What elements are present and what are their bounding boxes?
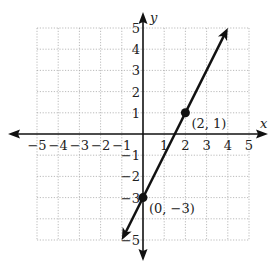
y-tick-label: −2 xyxy=(121,169,140,184)
y-tick-label: −3 xyxy=(121,191,140,206)
coordinate-plane: −5−4−3−2−112345−5−3−2−112345 (2, 1)(0, −… xyxy=(0,0,276,274)
x-axis-label: x xyxy=(260,116,268,131)
x-tick-label: 3 xyxy=(202,138,210,153)
x-tick-label: −2 xyxy=(91,138,110,153)
y-tick-label: 3 xyxy=(132,63,140,78)
data-point xyxy=(139,193,148,202)
y-tick-label: −1 xyxy=(121,148,140,163)
x-tick-label: 5 xyxy=(245,138,253,153)
x-tick-label: 4 xyxy=(224,138,232,153)
y-tick-label: 1 xyxy=(132,106,140,121)
x-tick-label: −4 xyxy=(49,138,68,153)
y-tick-label: 4 xyxy=(132,42,140,57)
x-tick-label: −5 xyxy=(27,138,46,153)
data-point-label: (2, 1) xyxy=(191,116,226,131)
y-axis-label: y xyxy=(149,10,158,25)
y-tick-label: 5 xyxy=(132,21,140,36)
data-point-label: (0, −3) xyxy=(149,201,195,216)
data-point xyxy=(181,108,190,117)
x-tick-label: 2 xyxy=(181,138,189,153)
x-tick-label: −3 xyxy=(70,138,89,153)
data-points: (2, 1)(0, −3) xyxy=(139,108,227,215)
y-tick-label: 2 xyxy=(132,85,140,100)
